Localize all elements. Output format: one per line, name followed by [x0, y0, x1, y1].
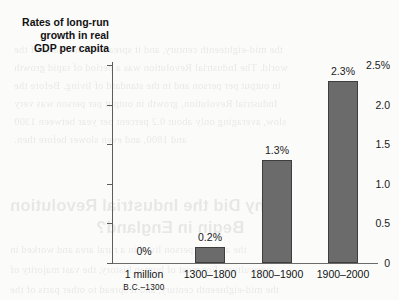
chart-axis-title-line: GDP per capita: [2, 42, 109, 55]
chart-axis-title-line: Rates of long-run: [2, 16, 109, 29]
bar-1900-2000: [328, 81, 358, 263]
y-tick-mark: [107, 144, 113, 145]
x-category-label: 1900–2000: [309, 268, 377, 281]
bar-1800-1900: [262, 160, 292, 263]
y-axis-line: [112, 62, 113, 264]
x-category-label-main: 1800–1900: [251, 268, 304, 280]
bar-1300-1800: [195, 247, 225, 263]
x-category-label: 1300–1800: [176, 268, 244, 281]
bar-value-label: 1.3%: [253, 145, 301, 156]
x-category-label-main: 1 million: [125, 268, 164, 280]
x-category-label: 1800–1900: [243, 268, 311, 281]
chart-axis-title-line: growth in real: [2, 29, 109, 42]
bar-value-label: 0.2%: [186, 232, 234, 243]
y-tick-mark: [107, 65, 113, 66]
y-tick-mark: [107, 223, 113, 224]
x-category-label: 1 million B.C.–1300: [112, 268, 176, 294]
y-tick-mark: [107, 105, 113, 106]
bar-chart: Rates of long-run growth in real GDP per…: [0, 0, 399, 300]
x-category-label-main: 1900–2000: [317, 268, 370, 280]
y-tick-mark: [107, 184, 113, 185]
bar-value-label: 0%: [120, 246, 168, 257]
chart-axis-title: Rates of long-run growth in real GDP per…: [2, 16, 109, 56]
y-tick-mark: [107, 263, 113, 264]
x-category-label-main: 1300–1800: [184, 268, 237, 280]
x-category-label-sub: B.C.–1300: [112, 281, 176, 294]
bar-value-label: 2.3%: [319, 66, 367, 77]
